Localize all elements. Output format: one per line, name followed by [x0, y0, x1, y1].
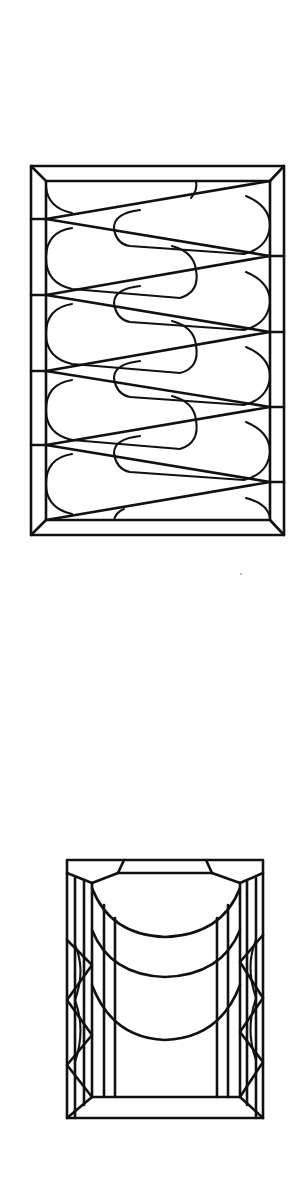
right-diamond-pattern: [240, 935, 263, 1097]
bottom-bevel: [67, 1097, 263, 1118]
panel-figure-1: [0, 0, 303, 600]
zigzag-loop-panel-drawing: [0, 0, 303, 600]
panel-figure-2: [0, 800, 303, 1194]
arc-diamond-panel-drawing: [0, 800, 303, 1194]
left-diamond-pattern: [67, 940, 92, 1097]
zigzag-bars: [46, 181, 270, 520]
top-bevel: [67, 860, 263, 883]
dust-speck: [240, 573, 242, 575]
